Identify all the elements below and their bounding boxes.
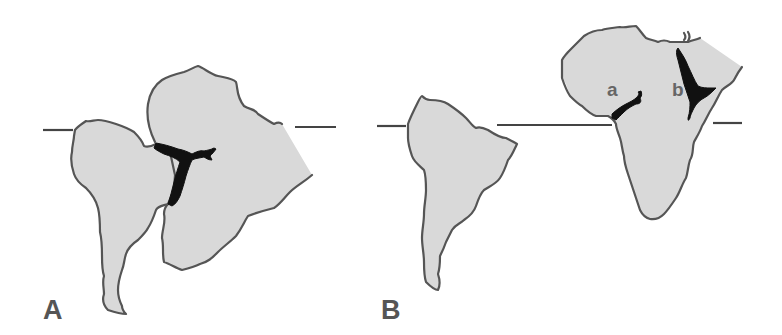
red-sea-edge-1 [684, 33, 686, 40]
red-sea-edge-2 [688, 32, 690, 41]
panel-label-b: B [381, 297, 401, 324]
rift-label-b: b [672, 80, 684, 99]
rift-label-a: a [607, 80, 618, 99]
panel-a [43, 66, 336, 314]
continental-drift-figure [0, 0, 782, 335]
panel-b [377, 26, 742, 290]
panel-label-a: A [43, 297, 63, 324]
